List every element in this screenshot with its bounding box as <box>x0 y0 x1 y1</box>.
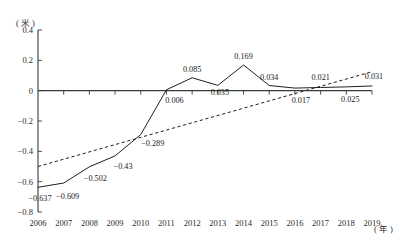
y-axis-tick-label: 0 <box>29 86 33 96</box>
x-axis-tick-label: 2016 <box>286 218 303 228</box>
chart-canvas: ( 米 ) ( 年 ) 0.40.20−0.2−0.4−0.6−0.8 2006… <box>0 0 399 248</box>
data-point-label: 0.006 <box>165 96 183 105</box>
x-axis-tick-label: 2010 <box>132 218 149 228</box>
trend-line-series <box>38 72 372 167</box>
trend-line <box>38 72 372 167</box>
data-polyline <box>38 65 372 187</box>
y-axis-tick-label: −0.2 <box>18 116 33 126</box>
y-axis: 0.40.20−0.2−0.4−0.6−0.8 <box>18 25 42 217</box>
data-value-labels: −0.637−0.609−0.502−0.43−0.2890.0060.0850… <box>28 52 383 203</box>
x-axis-tick-label: 2012 <box>184 218 201 228</box>
y-axis-tick-label: 0.4 <box>22 25 33 35</box>
data-point-label: −0.609 <box>56 192 79 201</box>
data-point-label: 0.017 <box>292 96 310 105</box>
x-axis-tick-label: 2015 <box>261 218 278 228</box>
data-point-label: −0.502 <box>84 174 107 183</box>
y-axis-tick-label: −0.8 <box>18 207 33 217</box>
data-point-label: 0.085 <box>183 65 201 74</box>
y-axis-tick-label: −0.6 <box>18 177 33 187</box>
data-point-label: 0.169 <box>234 52 252 61</box>
y-axis-tick-label: 0.2 <box>22 55 33 65</box>
data-point-label: 0.031 <box>365 72 383 81</box>
data-point-label: 0.034 <box>260 73 278 82</box>
x-axis-tick-label: 2006 <box>30 218 47 228</box>
x-axis: 2006200720082009201020112012201320142015… <box>30 91 381 228</box>
line-chart: ( 米 ) ( 年 ) 0.40.20−0.2−0.4−0.6−0.8 2006… <box>0 0 399 248</box>
x-axis-tick-label: 2019 <box>364 218 381 228</box>
data-line-series <box>38 65 372 187</box>
x-axis-tick-label: 2009 <box>107 218 124 228</box>
data-point-label: −0.637 <box>28 194 51 203</box>
data-point-label: −0.289 <box>141 139 164 148</box>
x-axis-tick-label: 2013 <box>209 218 226 228</box>
data-point-label: 0.021 <box>311 73 329 82</box>
y-axis-tick-label: −0.4 <box>18 146 34 156</box>
data-point-label: −0.43 <box>114 162 133 171</box>
data-point-label: 0.035 <box>211 88 229 97</box>
x-axis-tick-label: 2018 <box>338 218 355 228</box>
x-axis-tick-label: 2017 <box>312 218 329 228</box>
x-axis-tick-label: 2008 <box>81 218 98 228</box>
x-axis-tick-label: 2007 <box>55 218 72 228</box>
data-point-label: 0.025 <box>341 95 359 104</box>
x-axis-tick-label: 2011 <box>158 218 175 228</box>
x-axis-tick-label: 2014 <box>235 218 253 228</box>
